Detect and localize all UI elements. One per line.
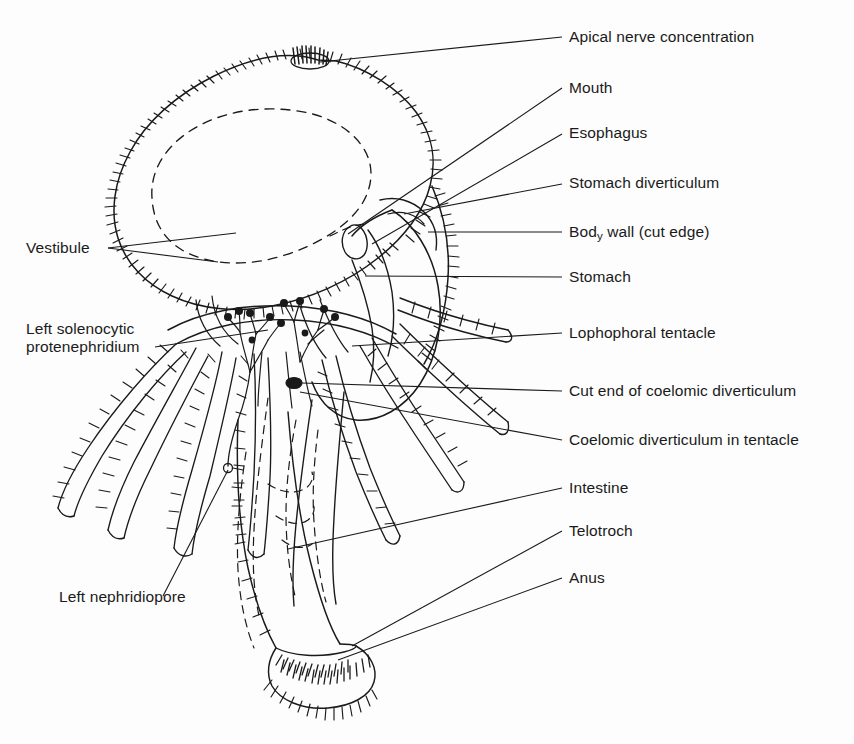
- label-anus: Anus: [569, 569, 605, 587]
- label-body-wall-cut-edge: Body wall (cut edge): [569, 223, 709, 245]
- label-stomach-diverticulum: Stomach diverticulum: [569, 174, 719, 192]
- label-lophophoral-tentacle: Lophophoral tentacle: [569, 324, 716, 342]
- label-mouth: Mouth: [569, 79, 613, 97]
- label-left-solenocytic-protenephridium: Left solenocyticprotenephridium: [26, 320, 140, 356]
- body-wall-text-part2: wall (cut edge): [603, 223, 710, 240]
- label-vestibule: Vestibule: [26, 239, 90, 257]
- label-coelomic-diverticulum-in-tentacle: Coelomic diverticulum in tentacle: [569, 431, 799, 449]
- label-telotroch: Telotroch: [569, 522, 633, 540]
- body-wall-text-part1: Bod: [569, 223, 597, 240]
- label-cut-end-of-coelomic-diverticulum: Cut end of coelomic diverticulum: [569, 382, 796, 400]
- label-stomach: Stomach: [569, 268, 631, 286]
- anatomical-illustration: [0, 0, 854, 744]
- label-esophagus: Esophagus: [569, 124, 647, 142]
- solenocytic-line-2: protenephridium: [26, 338, 140, 355]
- figure-page: Apical nerve concentration Mouth Esophag…: [0, 0, 854, 744]
- label-intestine: Intestine: [569, 479, 629, 497]
- solenocytic-line-1: Left solenocytic: [26, 320, 134, 337]
- label-left-nephridiopore: Left nephridiopore: [59, 588, 186, 606]
- label-apical-nerve-concentration: Apical nerve concentration: [569, 28, 754, 46]
